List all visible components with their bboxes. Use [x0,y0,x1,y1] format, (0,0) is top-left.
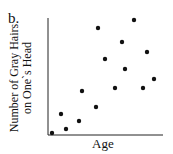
data-point [120,40,124,44]
data-point [59,112,63,116]
data-point [80,89,84,93]
data-point [94,105,98,109]
data-point [96,26,100,30]
data-point [141,86,145,90]
data-point [145,50,149,54]
data-point [50,131,54,135]
data-point [113,86,117,90]
data-point [103,57,107,61]
data-points [50,18,156,135]
data-point [64,127,68,131]
data-point [123,67,127,71]
data-point [152,77,156,81]
data-point [77,119,81,123]
data-point [132,18,136,22]
scatter-plot [0,0,173,154]
